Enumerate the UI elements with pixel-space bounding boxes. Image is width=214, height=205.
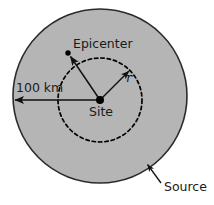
source-label: Source [164,179,207,194]
seismic-source-diagram: Epicenter Site r 100 km Source [0,0,214,205]
site-label: Site [89,104,113,119]
site-point [96,96,104,104]
epicenter-label: Epicenter [73,36,133,51]
radius-label: r [126,70,133,85]
source-callout-leader [148,165,162,184]
diagram-canvas: Epicenter Site r 100 km Source [0,0,214,205]
distance-label-100km: 100 km [16,80,63,95]
epicenter-point [65,50,70,55]
